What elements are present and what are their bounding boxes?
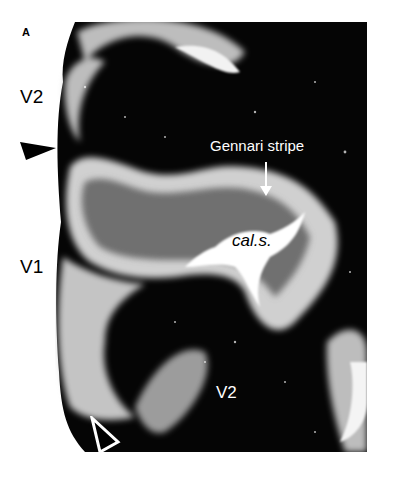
label-calcarine-sulcus: cal.s.: [232, 231, 272, 251]
panel-letter: A: [22, 26, 30, 38]
label-v2-bottom: V2: [216, 383, 237, 403]
label-v2-top: V2: [20, 86, 43, 108]
arrowhead-black-icon: [20, 138, 60, 162]
arrowhead-outline-icon: [88, 416, 122, 454]
label-v1: V1: [20, 256, 43, 278]
cortex-illustration: [55, 22, 367, 452]
figure-panel: A V2 V1 V2 Gennari stripe cal.s.: [0, 0, 397, 485]
label-gennari-stripe: Gennari stripe: [210, 137, 304, 154]
gennari-arrow-icon: [265, 162, 267, 190]
brain-section-image: [55, 22, 367, 452]
